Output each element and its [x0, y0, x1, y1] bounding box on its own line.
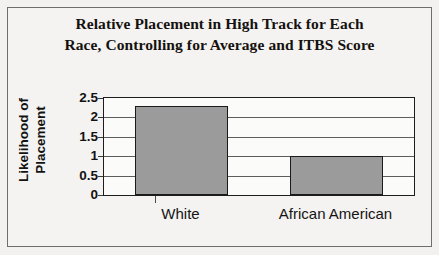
y-axis-tick-labels: 2.521.510.50 [52, 89, 98, 205]
y-axis-tick [98, 156, 103, 157]
y-axis-title-line-2: Placement [32, 98, 49, 182]
bar [135, 106, 228, 195]
chart-title: Relative Placement in High Track for Eac… [18, 13, 421, 55]
chart-title-line-1: Relative Placement in High Track for Eac… [18, 13, 421, 34]
x-axis-category-label: White [103, 205, 258, 222]
y-axis-tick-label: 2 [52, 109, 98, 124]
y-axis-title: Likelihood of Placement [9, 78, 55, 202]
y-axis-tick [98, 137, 103, 138]
y-axis-tick [98, 98, 103, 99]
y-axis-tick [98, 176, 103, 177]
y-axis-tick-label: 1 [52, 148, 98, 163]
y-axis-tick [98, 117, 103, 118]
y-axis-title-text: Likelihood of Placement [16, 98, 49, 182]
y-axis-tick-label: 1.5 [52, 128, 98, 143]
x-axis-category-label: African American [258, 205, 413, 222]
chart-figure: Relative Placement in High Track for Eac… [0, 0, 439, 255]
chart-title-line-2: Race, Controlling for Average and ITBS S… [18, 34, 421, 55]
y-axis-tick-label: 2.5 [52, 90, 98, 105]
y-axis-tick [98, 195, 103, 196]
plot-area [103, 97, 415, 196]
y-axis-title-line-1: Likelihood of [16, 98, 33, 182]
bar [290, 156, 383, 195]
y-axis-tick-label: 0.5 [52, 167, 98, 182]
y-axis-tick-label: 0 [52, 187, 98, 202]
x-axis-tick [155, 196, 156, 203]
x-axis-category-labels: WhiteAfrican American [103, 205, 415, 229]
